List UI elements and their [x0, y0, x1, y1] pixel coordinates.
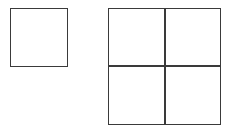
single-square	[10, 8, 68, 67]
grid-horizontal-divider	[108, 65, 221, 67]
diagram-canvas	[0, 0, 234, 128]
